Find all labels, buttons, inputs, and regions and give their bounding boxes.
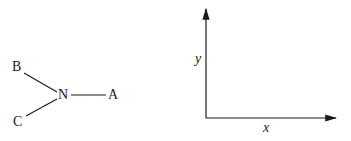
atom-c-label: C [13,115,22,129]
bond-n-c [26,99,57,116]
atom-a-label: A [108,88,118,102]
diagram-canvas [0,0,351,141]
x-axis-label: x [263,121,269,135]
bond-n-b [24,73,57,92]
y-axis-label: y [195,52,201,66]
atom-b-label: B [12,60,21,74]
atom-n-label: N [58,88,68,102]
